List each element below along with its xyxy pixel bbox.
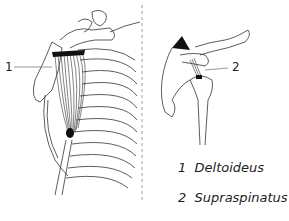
legend-number: 2 bbox=[178, 190, 186, 205]
deltoid-insertion bbox=[66, 128, 74, 138]
legend-item-1: 1 Deltoideus bbox=[178, 160, 264, 175]
label-2: 2 bbox=[232, 60, 240, 74]
legend-item-2: 2 Supraspinatus bbox=[178, 190, 288, 205]
anatomy-illustration bbox=[0, 0, 289, 221]
supraspinatus-insertion bbox=[196, 75, 202, 79]
supraspinatus-origin bbox=[172, 36, 190, 50]
label-1: 1 bbox=[5, 60, 13, 74]
legend-name: Supraspinatus bbox=[195, 190, 288, 205]
label-2-leader bbox=[205, 68, 228, 70]
rib-cage bbox=[33, 10, 140, 195]
legend-name: Deltoideus bbox=[195, 160, 265, 175]
legend-number: 1 bbox=[178, 160, 186, 175]
supraspinatus-muscle bbox=[190, 58, 201, 76]
